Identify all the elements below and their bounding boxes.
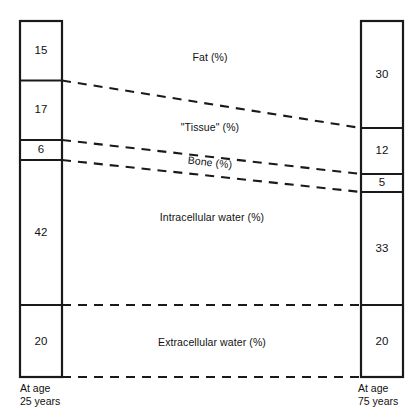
right-axis-caption-line1: At age (358, 382, 388, 394)
right-value-bone: 5 (361, 177, 403, 189)
right-value-tissue: 12 (361, 145, 403, 157)
left-value-fat: 15 (20, 45, 62, 57)
right-value-extracellular: 20 (361, 336, 403, 348)
left-value-bone: 6 (20, 144, 62, 156)
left-column-outline (20, 21, 62, 377)
right-axis-caption: At age 75 years (358, 382, 398, 408)
band-label-fat: Fat (%) (150, 52, 270, 63)
left-column-frame (20, 21, 62, 377)
left-axis-caption: At age 25 years (20, 382, 60, 408)
band-label-tissue: "Tissue" (%) (150, 122, 270, 133)
right-value-intracellular: 33 (361, 243, 403, 255)
left-value-tissue: 17 (20, 104, 62, 116)
body-composition-diagram: 15 17 6 42 20 30 12 5 33 20 Fat (%) "Tis… (0, 0, 420, 418)
right-axis-caption-line2: 75 years (358, 395, 398, 408)
left-value-extracellular: 20 (20, 336, 62, 348)
band-label-intracellular: Intracellular water (%) (132, 212, 292, 223)
band-label-extracellular: Extracellular water (%) (132, 337, 292, 348)
left-value-intracellular: 42 (20, 227, 62, 239)
left-axis-caption-line2: 25 years (20, 395, 60, 408)
right-value-fat: 30 (361, 69, 403, 81)
left-axis-caption-line1: At age (20, 382, 50, 394)
